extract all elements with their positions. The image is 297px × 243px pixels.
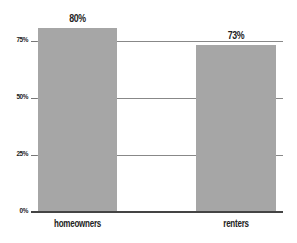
category-label-homeowners: homeowners xyxy=(46,218,109,229)
ytick-label-50: 50% xyxy=(6,92,28,101)
ytick-label-75: 75% xyxy=(6,35,28,44)
value-label-homeowners: 80% xyxy=(46,12,109,24)
bar-homeowners xyxy=(38,28,117,212)
x-axis-baseline xyxy=(31,211,283,213)
bar-chart: 75% 50% 25% 0% 80% 73% homeowners renter… xyxy=(0,0,297,243)
category-label-renters: renters xyxy=(204,218,268,229)
bar-renters xyxy=(196,45,276,212)
ytick-label-25: 25% xyxy=(6,149,28,158)
ytick-label-0: 0% xyxy=(6,206,28,215)
value-label-renters: 73% xyxy=(204,29,268,41)
